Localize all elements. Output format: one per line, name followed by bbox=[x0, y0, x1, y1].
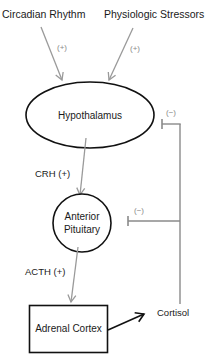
feedback-pituitary-sign: (−) bbox=[134, 206, 144, 215]
acth-arrow bbox=[71, 247, 78, 302]
pituitary-label-line1: Anterior bbox=[64, 211, 100, 222]
stressors-arrow bbox=[109, 28, 133, 80]
cortisol-output-arrow bbox=[108, 314, 144, 330]
input-label-circadian-rhythm: Circadian Rhythm bbox=[2, 8, 86, 20]
pituitary-label-line2: Pituitary bbox=[64, 224, 100, 235]
stressors-sign: (+) bbox=[130, 44, 140, 53]
hypothalamus-label: Hypothalamus bbox=[58, 110, 122, 121]
feedback-hypothalamus-sign: (−) bbox=[166, 108, 176, 117]
cortisol-label: Cortisol bbox=[157, 307, 189, 318]
anterior-pituitary-node bbox=[53, 194, 111, 252]
input-label-physiologic-stressors: Physiologic Stressors bbox=[104, 8, 204, 20]
acth-label: ACTH (+) bbox=[25, 266, 65, 277]
circadian-sign: (+) bbox=[57, 43, 67, 52]
circadian-arrow bbox=[41, 27, 62, 80]
crh-label: CRH (+) bbox=[35, 168, 70, 179]
hpa-axis-diagram: Circadian Rhythm Physiologic Stressors (… bbox=[0, 0, 207, 357]
adrenal-cortex-label: Adrenal Cortex bbox=[35, 323, 102, 334]
